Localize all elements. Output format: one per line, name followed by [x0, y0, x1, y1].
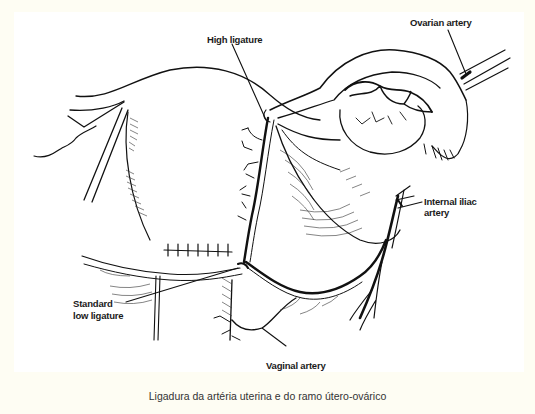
- high-ligature-pointer: [232, 44, 266, 120]
- fallopian-tube: [270, 50, 466, 110]
- label-standard-low-ligature-line2: low ligature: [73, 310, 123, 321]
- ovarian-artery-pointer: [448, 30, 466, 74]
- standard-low-ligature-pointer: [126, 268, 238, 302]
- uterine-artery-ascending: [244, 118, 268, 262]
- uterine-artery-horizontal: [246, 240, 386, 293]
- label-internal-iliac-artery-line2: artery: [424, 207, 449, 218]
- label-ovarian-artery: Ovarian artery: [410, 17, 472, 28]
- label-internal-iliac-artery-line1: Internal iliac: [424, 196, 477, 207]
- label-standard-low-ligature-line1: Standard: [73, 298, 113, 309]
- uterus-fundus-outline: [76, 67, 320, 120]
- uterus-left-wall: [84, 108, 122, 200]
- label-high-ligature: High ligature: [207, 34, 262, 45]
- label-vaginal-artery: Vaginal artery: [266, 360, 326, 371]
- ovary: [340, 106, 425, 154]
- figure-caption: Ligadura da artéria uterina e do ramo út…: [0, 390, 535, 402]
- vaginal-artery: [230, 280, 296, 340]
- vaginal-artery-pointer: [262, 328, 286, 346]
- uterine-artery-ligation-illustration: [0, 0, 535, 414]
- cervix-contour: [82, 256, 240, 275]
